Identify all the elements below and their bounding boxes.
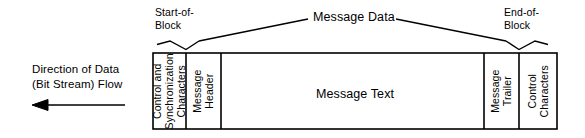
callout-start-of-block: Start-of- Block xyxy=(155,6,194,31)
cell-label-control-and-synchronization-characters: Control and Synchronization Characters xyxy=(151,53,188,129)
left-arrow-icon xyxy=(32,100,48,111)
message-data-leader-left xyxy=(199,19,308,41)
block-frame-diagram: Start-of- Block Message Data End-of- Blo… xyxy=(0,0,585,138)
cell-label-message-text: Message Text xyxy=(316,88,394,101)
cell-control-and-synchronization-characters: Control and Synchronization Characters xyxy=(153,53,186,129)
direction-of-data-flow-label: Direction of Data (Bit Stream) Flow xyxy=(32,62,123,91)
cell-label-message-header: Message Header xyxy=(191,69,215,112)
callout-end-of-block: End-of- Block xyxy=(504,6,539,31)
start-of-block-leader xyxy=(157,41,199,50)
end-of-block-leader xyxy=(506,41,548,50)
callout-message-data: Message Data xyxy=(313,11,395,24)
cell-label-message-trailer: Message Trailer xyxy=(489,69,513,112)
cell-message-trailer: Message Trailer xyxy=(484,53,519,129)
cell-control-characters: Control Characters xyxy=(519,53,557,129)
cell-message-header: Message Header xyxy=(186,53,221,129)
cell-label-control-characters: Control Characters xyxy=(526,65,550,117)
message-data-leader-right xyxy=(396,19,506,41)
